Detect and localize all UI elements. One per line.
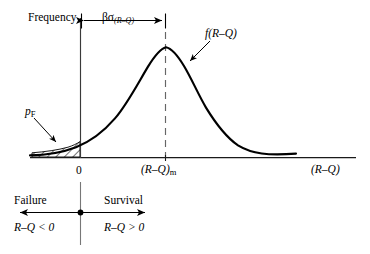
origin-tick-label: 0	[76, 165, 82, 177]
survival-condition-label: R–Q > 0	[104, 222, 144, 234]
mean-tick-subscript: m	[170, 167, 177, 177]
beta-sigma-label: βσ(R–Q)	[102, 12, 134, 25]
x-axis-label: (R–Q)	[311, 164, 340, 176]
failure-region-title: Failure	[14, 195, 47, 207]
figure-canvas	[0, 0, 370, 254]
mean-tick-base: (R–Q)	[141, 163, 170, 175]
failure-condition-label: R–Q < 0	[14, 222, 54, 234]
failure-probability-label: pF	[25, 106, 35, 119]
failure-probability-subscript: F	[31, 109, 36, 119]
density-function-label: f(R–Q)	[205, 28, 237, 40]
beta-sigma-base: βσ	[102, 11, 114, 23]
beta-sigma-subscript: (R–Q)	[114, 16, 134, 25]
origin-dot	[78, 210, 84, 216]
density-label-leader-line	[190, 41, 210, 61]
survival-region-title: Survival	[104, 195, 143, 207]
density-curve	[30, 47, 296, 155]
distribution-figure: Frequency βσ(R–Q) f(R–Q) pF 0 (R–Q)m (R–…	[0, 0, 370, 254]
mean-tick-label: (R–Q)m	[141, 164, 176, 177]
y-axis-label: Frequency	[28, 12, 77, 24]
pf-leader-line	[34, 118, 56, 142]
